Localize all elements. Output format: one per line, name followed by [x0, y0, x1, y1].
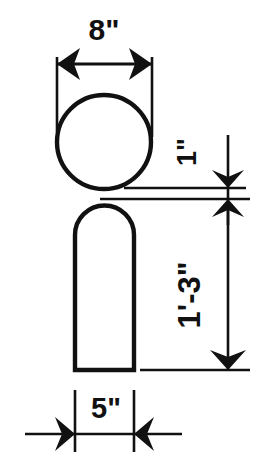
circle-plan-view — [57, 95, 151, 189]
base-width-label: 5" — [91, 392, 121, 424]
gap-dimension: 1" — [172, 135, 244, 225]
plan-view-circle — [57, 95, 151, 189]
post-outline — [75, 206, 134, 370]
gap-label: 1" — [172, 138, 202, 166]
top-width-dimension: 8" — [57, 13, 152, 137]
top-width-label: 8" — [89, 13, 120, 46]
post-height-label: 1'-3" — [172, 262, 207, 329]
post-height-dimension: 1'-3" — [172, 205, 246, 370]
technical-drawing: 8" 1" — [0, 0, 269, 461]
base-width-dimension: 5" — [25, 390, 182, 452]
rounded-post-elevation — [75, 206, 134, 370]
drawing-canvas: 8" 1" — [0, 0, 269, 461]
